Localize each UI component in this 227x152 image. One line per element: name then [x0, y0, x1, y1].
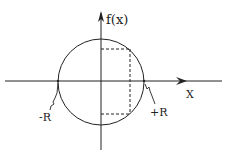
left-intercept-point [57, 80, 59, 82]
y-axis-label: f(x) [106, 12, 128, 27]
right-leader-line [145, 84, 155, 104]
diagram-canvas: f(x) X -R +R [0, 0, 227, 152]
x-axis-label: X [186, 88, 194, 101]
right-intercept-point [143, 80, 145, 82]
left-leader-line [50, 83, 58, 110]
right-intercept-label: +R [150, 106, 168, 119]
left-intercept-label: -R [39, 111, 52, 124]
